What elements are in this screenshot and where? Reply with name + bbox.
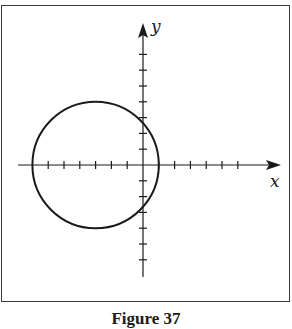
x-axis-label: x bbox=[270, 171, 280, 191]
figure-caption: Figure 37 bbox=[0, 309, 292, 329]
y-axis-label: y bbox=[151, 16, 161, 36]
axes bbox=[18, 32, 272, 277]
